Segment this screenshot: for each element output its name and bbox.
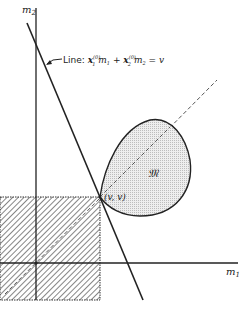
point-vv <box>99 196 102 199</box>
diagram-canvas: m2 m1 Line: x(0)1m1 + x(0)2m2 = v 𝔐 (v, … <box>0 0 243 310</box>
line-equation-label: Line: x(0)1m1 + x(0)2m2 = v <box>63 54 164 67</box>
point-vv-label: (v, v) <box>104 192 126 202</box>
m2-axis-label: m2 <box>22 4 36 17</box>
origin-point <box>34 261 37 264</box>
m1-axis-label: m1 <box>226 266 240 279</box>
